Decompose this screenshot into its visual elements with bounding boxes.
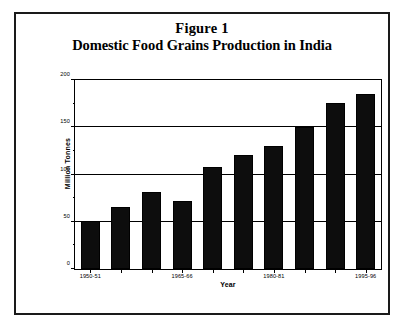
y-axis-title-label: Million Tonnes xyxy=(64,138,71,189)
x-axis-tick-label: 1950-51 xyxy=(80,273,101,279)
bar xyxy=(295,127,314,269)
x-axis-tick xyxy=(305,269,306,273)
bar xyxy=(142,192,161,269)
y-axis-tick-label: 200 xyxy=(60,71,70,77)
y-axis-tick-label: 0 xyxy=(67,260,70,266)
y-axis-tick xyxy=(71,126,75,127)
y-axis-minor-tick xyxy=(73,150,76,151)
x-axis-tick xyxy=(182,269,183,273)
x-axis-tick xyxy=(335,269,336,273)
y-axis-minor-tick xyxy=(73,244,76,245)
x-axis-tick xyxy=(90,269,91,273)
y-axis-tick xyxy=(71,268,75,269)
bar xyxy=(264,146,283,269)
bar xyxy=(111,207,130,269)
y-axis-tick-label: 50 xyxy=(64,213,70,219)
x-axis-tick-label: 1995-96 xyxy=(355,273,376,279)
x-axis-tick xyxy=(243,269,244,273)
chart-plot-area: 050100150200 1950-511965-661980-811995-9… xyxy=(74,79,382,270)
x-axis-tick xyxy=(274,269,275,273)
figure-frame: Figure 1 Domestic Food Grains Production… xyxy=(14,12,390,315)
x-axis-tick-label: 1965-66 xyxy=(171,273,192,279)
x-axis-title: Year xyxy=(74,281,382,288)
y-axis-tick-label: 150 xyxy=(60,118,70,124)
x-axis-tick xyxy=(121,269,122,273)
chart-plot-wrapper: 050100150200 1950-511965-661980-811995-9… xyxy=(74,79,382,270)
y-axis-tick xyxy=(71,79,75,80)
x-axis-tick xyxy=(152,269,153,273)
y-axis-tick xyxy=(71,174,75,175)
y-axis-minor-tick xyxy=(73,103,76,104)
bar xyxy=(81,221,100,269)
x-axis-tick xyxy=(366,269,367,273)
y-axis-tick-label: 100 xyxy=(60,166,70,172)
bar xyxy=(326,103,345,269)
y-axis-tick xyxy=(71,221,75,222)
bar xyxy=(356,94,375,269)
bar xyxy=(234,155,253,269)
y-axis-minor-tick xyxy=(73,197,76,198)
x-axis-tick xyxy=(213,269,214,273)
bar xyxy=(203,167,222,269)
bar xyxy=(173,201,192,269)
x-axis-tick-label: 1980-81 xyxy=(263,273,284,279)
